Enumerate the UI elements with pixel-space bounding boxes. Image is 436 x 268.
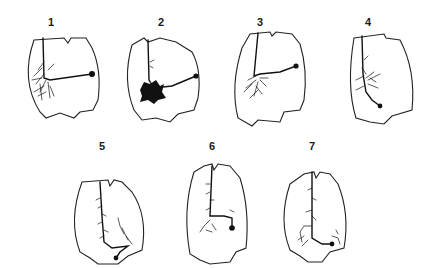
neuron-drawing-6 [176,140,266,268]
neuron-drawing-3 [230,0,310,130]
neuron-drawing-2 [120,0,200,130]
panel-4: 4 [340,0,420,130]
panel-7: 7 [278,140,368,268]
panel-2: 2 [120,0,200,130]
panel-1: 1 [20,0,100,130]
panel-5: 5 [68,140,148,268]
neuron-drawing-5 [68,140,148,268]
neuron-drawing-7 [278,140,368,268]
panel-6: 6 [176,140,266,268]
neuron-drawing-4 [340,0,420,130]
neuron-drawing-1 [20,0,100,130]
panel-3: 3 [230,0,310,130]
